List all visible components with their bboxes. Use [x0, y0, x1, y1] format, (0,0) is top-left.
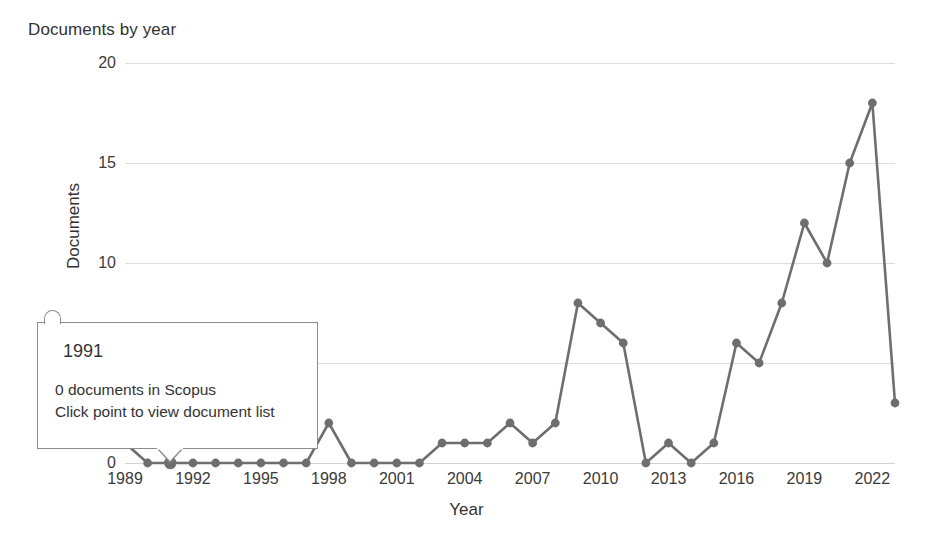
tooltip-document-count: 0 documents in Scopus	[55, 381, 216, 399]
data-point-2015[interactable]	[709, 439, 718, 448]
data-point-2011[interactable]	[619, 339, 628, 348]
data-point-2021[interactable]	[845, 159, 854, 168]
x-tick-label-2013: 2013	[651, 470, 687, 488]
x-tick-label-2004: 2004	[447, 470, 483, 488]
data-point-2007[interactable]	[528, 439, 537, 448]
data-point-1997[interactable]	[302, 459, 311, 468]
documents-by-year-chart: Documents by year Documents 05101520 198…	[0, 0, 933, 548]
data-point-2002[interactable]	[415, 459, 424, 468]
data-point-tooltip[interactable]: 1991 0 documents in Scopus Click point t…	[37, 322, 318, 449]
x-tick-label-2022: 2022	[855, 470, 891, 488]
x-tick-label-2001: 2001	[379, 470, 415, 488]
data-point-1994[interactable]	[234, 459, 243, 468]
x-tick-label-1998: 1998	[311, 470, 347, 488]
data-point-2013[interactable]	[664, 439, 673, 448]
data-point-1990[interactable]	[143, 459, 152, 468]
data-point-1993[interactable]	[211, 459, 220, 468]
data-point-1992[interactable]	[189, 459, 198, 468]
data-point-2003[interactable]	[438, 439, 447, 448]
x-tick-label-2019: 2019	[787, 470, 823, 488]
y-axis-title: Documents	[64, 146, 84, 306]
data-point-2008[interactable]	[551, 419, 560, 428]
tooltip-year-label: 1991	[63, 341, 103, 362]
data-point-2009[interactable]	[574, 299, 583, 308]
data-point-1998[interactable]	[324, 419, 333, 428]
x-axis-title: Year	[0, 500, 933, 520]
x-tick-label-2010: 2010	[583, 470, 619, 488]
y-tick-label-10: 10	[98, 254, 116, 272]
x-tick-label-1992: 1992	[175, 470, 211, 488]
data-point-2017[interactable]	[755, 359, 764, 368]
data-point-2019[interactable]	[800, 219, 809, 228]
x-axis-tick-labels: 1989199219951998200120042007201020132016…	[125, 470, 895, 496]
tooltip-pointer-icon	[157, 448, 183, 464]
data-point-2005[interactable]	[483, 439, 492, 448]
data-point-1996[interactable]	[279, 459, 288, 468]
x-tick-label-2016: 2016	[719, 470, 755, 488]
data-point-2016[interactable]	[732, 339, 741, 348]
x-tick-label-1995: 1995	[243, 470, 279, 488]
chart-title: Documents by year	[28, 20, 176, 40]
y-tick-label-20: 20	[98, 54, 116, 72]
x-tick-label-2007: 2007	[515, 470, 551, 488]
data-point-2010[interactable]	[596, 319, 605, 328]
y-tick-label-15: 15	[98, 154, 116, 172]
tooltip-hint-text: Click point to view document list	[55, 403, 275, 421]
data-point-2018[interactable]	[777, 299, 786, 308]
data-point-2022[interactable]	[868, 99, 877, 108]
data-point-1995[interactable]	[256, 459, 265, 468]
data-point-2004[interactable]	[460, 439, 469, 448]
data-point-2012[interactable]	[641, 459, 650, 468]
data-point-2006[interactable]	[506, 419, 515, 428]
tooltip-handle-icon	[44, 310, 61, 324]
data-point-2020[interactable]	[823, 259, 832, 268]
data-point-2000[interactable]	[370, 459, 379, 468]
data-point-1999[interactable]	[347, 459, 356, 468]
data-point-2023[interactable]	[891, 399, 900, 408]
data-point-2001[interactable]	[392, 459, 401, 468]
data-point-2014[interactable]	[687, 459, 696, 468]
x-tick-label-1989: 1989	[107, 470, 143, 488]
